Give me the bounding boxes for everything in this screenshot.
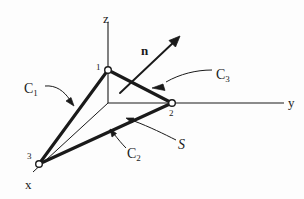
edge-c1-node3-node1	[39, 70, 108, 164]
leader-c1-curve	[45, 86, 70, 100]
leader-c2-curve	[114, 134, 126, 148]
node-markers-group	[36, 67, 176, 168]
curve-label-c1-base: C	[24, 81, 33, 96]
curve-label-c3-base: C	[216, 67, 225, 82]
curve-label-c1: C1	[24, 82, 38, 96]
leader-c3-arrowhead	[152, 84, 165, 91]
leader-c3-curve	[166, 70, 212, 82]
normal-vector-label-n: n	[141, 44, 148, 57]
curve-label-c2-sub: 2	[136, 153, 141, 163]
curve-label-c3: C3	[216, 68, 230, 82]
axis-label-x: x	[25, 178, 32, 191]
triangle-edges-group	[39, 70, 172, 164]
leader-c1-group	[45, 86, 74, 106]
edge-c2-node3-node2	[39, 103, 172, 164]
curve-label-c2-base: C	[127, 146, 136, 161]
node-label-3: 3	[27, 152, 32, 161]
node-marker-3	[36, 161, 43, 168]
curve-label-c2: C2	[127, 147, 141, 161]
node-marker-1	[105, 67, 112, 74]
figure-container: z y x 1 2 3 C1 C2 C3 S n	[0, 0, 304, 199]
surface-label-s: S	[178, 138, 185, 152]
curve-label-c3-sub: 3	[225, 74, 230, 84]
curve-label-c1-sub: 1	[33, 88, 38, 98]
normal-vector-group	[120, 36, 180, 93]
leader-c3-group	[152, 70, 212, 91]
node-label-2: 2	[169, 109, 174, 118]
axis-label-z: z	[103, 12, 109, 25]
node-marker-2	[169, 100, 176, 107]
leader-c1-arrowhead	[66, 98, 74, 107]
leader-s-curve	[134, 121, 176, 140]
diagram-canvas	[0, 0, 304, 199]
axis-label-y: y	[288, 96, 295, 109]
node-label-1: 1	[96, 63, 101, 72]
leader-c2-group	[110, 129, 126, 148]
